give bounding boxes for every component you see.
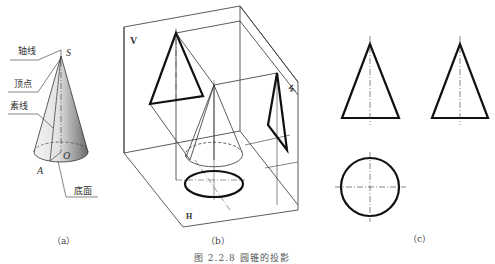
panel-c-top-view	[335, 152, 406, 222]
plane-v-label: V	[130, 36, 137, 46]
panel-c-side-view	[432, 36, 488, 125]
label-base: 底面	[74, 187, 92, 196]
point-a: A	[37, 166, 43, 176]
panel-c-front-view	[342, 36, 399, 125]
plane-h-label: H	[186, 213, 192, 221]
label-generatrix: 素线	[10, 102, 28, 111]
subfigure-label-a: （a）	[52, 237, 75, 246]
panel-b-projection-box	[124, 6, 298, 227]
v-projection-triangle	[150, 33, 203, 104]
figure-caption: 图 2.2.8 圆锥的投影	[194, 254, 290, 263]
w-projection-triangle	[268, 73, 287, 150]
label-axis: 轴线	[18, 47, 36, 56]
cone-projection-drawing	[0, 0, 495, 264]
point-s: S	[66, 48, 71, 58]
panel-a-cone	[8, 50, 98, 197]
subfigure-label-b: （b）	[206, 237, 230, 246]
label-apex: 顶点	[14, 80, 32, 89]
subfigure-label-c: （c）	[408, 235, 431, 244]
point-o: O	[63, 151, 70, 161]
